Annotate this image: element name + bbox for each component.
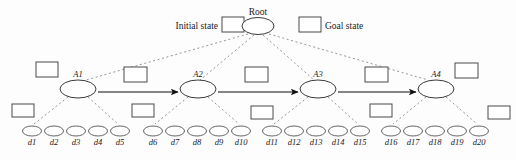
action-label-A2: A2 — [192, 69, 203, 79]
leaf-label-d10: d10 — [235, 137, 249, 147]
leaf-edge-a4-d16 — [393, 97, 426, 124]
leaf-edge-a1-d5 — [88, 97, 118, 124]
action-label-A4: A4 — [430, 69, 441, 79]
leaf-edge-a1-d1 — [34, 97, 68, 124]
leaf-node-d7 — [166, 126, 185, 136]
leaf-label-d3: d3 — [72, 137, 81, 147]
state-box-a2-a3 — [245, 67, 268, 82]
state-box-a4-right — [455, 63, 478, 78]
leaf-label-d7: d7 — [171, 137, 180, 147]
leaf-label-d11: d11 — [266, 137, 278, 147]
leaf-node-d5 — [111, 126, 130, 136]
leaf-node-d13 — [307, 126, 326, 136]
leaf-node-d12 — [285, 126, 304, 136]
leaf-node-d4 — [89, 126, 108, 136]
leaf-node-d18 — [426, 126, 445, 136]
state-box-d16-left — [370, 104, 392, 117]
leaf-node-d19 — [448, 126, 467, 136]
legend-initial-state-box — [222, 17, 244, 32]
leaf-node-d8 — [188, 126, 207, 136]
leaf-edge-a3-d15 — [328, 97, 358, 124]
root-label: Root — [249, 7, 268, 17]
root-edge-a1 — [86, 34, 248, 80]
legend-goal-state-label: Goal state — [325, 21, 363, 31]
leaf-node-d10 — [232, 126, 251, 136]
leaf-label-d18: d18 — [429, 137, 443, 147]
leaf-edge-a3-d11 — [274, 97, 308, 124]
state-box-d20-right — [488, 106, 510, 119]
state-box-a1-a2 — [124, 67, 147, 82]
leaf-label-d19: d19 — [451, 137, 465, 147]
state-box-a1-left — [36, 62, 58, 77]
leaf-edge-a2-d10 — [208, 97, 239, 124]
leaf-label-d20: d20 — [473, 137, 487, 147]
leaf-node-d6 — [144, 126, 163, 136]
leaf-node-d3 — [67, 126, 86, 136]
action-node-A4 — [418, 80, 454, 98]
root-edge-a3 — [263, 35, 314, 80]
action-label-A3: A3 — [312, 69, 322, 79]
leaf-label-d17: d17 — [407, 137, 421, 147]
leaf-label-d12: d12 — [288, 137, 302, 147]
diagram-canvas: d1d2d3d4d5d6d7d8d9d10d11d12d13d14d15d16d… — [0, 0, 516, 160]
action-node-A1 — [60, 80, 96, 98]
leaf-label-d13: d13 — [310, 137, 323, 147]
leaf-label-d6: d6 — [149, 137, 158, 147]
action-node-A2 — [180, 80, 216, 98]
action-node-A3 — [300, 80, 336, 98]
leaf-node-d9 — [210, 126, 229, 136]
state-box-a3-a4 — [365, 67, 388, 82]
leaf-node-d17 — [404, 126, 423, 136]
root-node — [242, 18, 274, 35]
leaf-node-d14 — [329, 126, 348, 136]
leaf-label-d8: d8 — [193, 137, 202, 147]
leaf-label-d5: d5 — [116, 137, 125, 147]
state-box-d6-left — [132, 104, 154, 117]
leaf-node-d2 — [45, 126, 64, 136]
root-edge-a4 — [269, 34, 428, 80]
state-box-d11-left — [251, 106, 273, 119]
state-box-d1-left — [12, 104, 34, 117]
leaf-label-d16: d16 — [385, 137, 399, 147]
action-label-A1: A1 — [72, 69, 82, 79]
leaf-node-d20 — [470, 126, 489, 136]
leaf-label-d1: d1 — [28, 137, 37, 147]
leaf-node-d1 — [23, 126, 42, 136]
leaf-label-d9: d9 — [215, 137, 224, 147]
leaf-label-d4: d4 — [94, 137, 103, 147]
leaf-label-d15: d15 — [354, 137, 367, 147]
leaf-node-d15 — [351, 126, 370, 136]
leaf-edge-a4-d20 — [446, 97, 477, 124]
legend-goal-state-box — [299, 17, 321, 32]
leaf-nodes-group: d1d2d3d4d5d6d7d8d9d10d11d12d13d14d15d16d… — [23, 126, 489, 147]
leaf-node-d11 — [263, 126, 282, 136]
leaf-label-d14: d14 — [332, 137, 346, 147]
search-tree-diagram: d1d2d3d4d5d6d7d8d9d10d11d12d13d14d15d16d… — [0, 0, 516, 160]
legend-initial-state-label: Initial state — [176, 21, 218, 31]
leaf-edge-a2-d6 — [155, 97, 188, 124]
root-node-group: Root — [242, 7, 274, 35]
leaf-label-d2: d2 — [50, 137, 59, 147]
leaf-node-d16 — [382, 126, 401, 136]
